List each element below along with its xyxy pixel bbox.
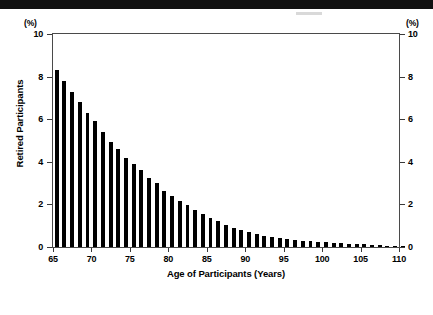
bar <box>332 243 336 247</box>
x-axis-title: Age of Participants (Years) <box>52 268 400 279</box>
x-axis-tick <box>399 248 400 252</box>
bar <box>62 81 66 247</box>
x-axis-tick-label: 100 <box>307 255 337 264</box>
bar <box>370 245 374 247</box>
bar <box>232 228 236 247</box>
y-axis-tick-label-left: 10 <box>13 30 43 39</box>
bar <box>216 221 220 247</box>
bar <box>309 241 313 247</box>
plot-area <box>53 34 399 247</box>
bar <box>224 225 228 247</box>
y-axis-tick-right <box>400 34 405 35</box>
bar <box>301 241 305 247</box>
y-axis-tick-right <box>400 204 405 205</box>
x-axis-tick-label: 105 <box>346 255 376 264</box>
x-axis-tick <box>53 248 54 252</box>
x-axis-tick-label: 90 <box>230 255 260 264</box>
bar <box>347 244 351 247</box>
x-axis-tick <box>284 248 285 252</box>
y-axis-unit-label-right: (%) <box>406 18 419 28</box>
bar <box>147 178 151 247</box>
bar <box>116 149 120 247</box>
bar <box>262 236 266 248</box>
x-axis-tick <box>130 248 131 252</box>
y-axis-tick-label-right: 4 <box>408 158 432 167</box>
bar <box>362 244 366 247</box>
bar <box>93 121 97 247</box>
bar-chart-figure: (%) (%) Retired Participants Age of Part… <box>0 0 433 315</box>
bar <box>255 234 259 247</box>
x-axis-tick-label: 65 <box>38 255 68 264</box>
y-axis-tick-label-left: 8 <box>13 73 43 82</box>
y-axis-tick-label-left: 0 <box>13 243 43 252</box>
x-axis-tick-label: 95 <box>269 255 299 264</box>
bar <box>162 191 166 247</box>
bar <box>132 164 136 247</box>
bar <box>155 183 159 247</box>
bar <box>186 205 190 247</box>
y-axis-tick-left <box>47 77 52 78</box>
bar <box>316 242 320 247</box>
x-axis-tick-label: 70 <box>76 255 106 264</box>
bar <box>355 244 359 247</box>
bar <box>86 113 90 247</box>
bar <box>278 238 282 247</box>
x-axis-tick <box>207 248 208 252</box>
x-axis-tick-label: 80 <box>153 255 183 264</box>
bar <box>201 214 205 247</box>
y-axis-tick-right <box>400 77 405 78</box>
bar <box>285 239 289 247</box>
bar <box>247 232 251 247</box>
bar <box>193 210 197 247</box>
bar <box>293 240 297 247</box>
x-axis-tick <box>322 248 323 252</box>
y-axis-tick-label-left: 2 <box>13 200 43 209</box>
x-axis-tick-label: 85 <box>192 255 222 264</box>
bar <box>270 237 274 247</box>
bar <box>170 196 174 247</box>
y-axis-tick-label-right: 0 <box>408 243 432 252</box>
bar <box>70 92 74 247</box>
y-axis-tick-right <box>400 247 405 248</box>
bar <box>239 230 243 247</box>
bar <box>385 246 389 247</box>
x-axis-tick <box>91 248 92 252</box>
bar <box>393 246 397 247</box>
y-axis-tick-label-right: 10 <box>408 30 432 39</box>
y-axis-tick-right <box>400 119 405 120</box>
bar <box>178 201 182 247</box>
bar <box>324 242 328 247</box>
x-axis-tick-label: 75 <box>115 255 145 264</box>
bar <box>139 170 143 247</box>
bar <box>124 158 128 247</box>
bar <box>78 102 82 247</box>
y-axis-tick-left <box>47 119 52 120</box>
y-axis-tick-left <box>47 247 52 248</box>
y-axis-tick-label-right: 6 <box>408 115 432 124</box>
y-axis-tick-label-left: 6 <box>13 115 43 124</box>
bar <box>55 70 59 247</box>
y-axis-unit-label-left: (%) <box>24 18 37 28</box>
bar <box>339 243 343 247</box>
y-axis-tick-right <box>400 162 405 163</box>
bar <box>378 245 382 247</box>
y-axis-tick-left <box>47 204 52 205</box>
x-axis-tick <box>361 248 362 252</box>
y-axis-tick-label-right: 8 <box>408 73 432 82</box>
y-axis-tick-left <box>47 34 52 35</box>
x-axis-tick <box>168 248 169 252</box>
y-axis-tick-label-right: 2 <box>408 200 432 209</box>
bar <box>209 218 213 247</box>
y-axis-tick-label-left: 4 <box>13 158 43 167</box>
x-axis-tick <box>245 248 246 252</box>
bar <box>109 142 113 247</box>
bar <box>101 132 105 247</box>
y-axis-tick-left <box>47 162 52 163</box>
x-axis-tick-label: 110 <box>384 255 414 264</box>
